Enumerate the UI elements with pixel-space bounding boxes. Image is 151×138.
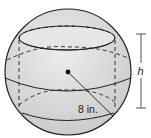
radius-label: 8 in.	[78, 103, 98, 115]
sphere-cylinder-diagram: 8 in. h	[0, 0, 151, 138]
height-label: h	[138, 65, 144, 77]
